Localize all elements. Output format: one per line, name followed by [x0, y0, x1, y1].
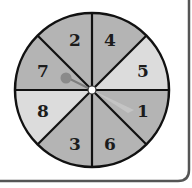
sector-label-5: 5: [137, 61, 149, 81]
sector-label-1: 1: [137, 101, 149, 121]
sector-label-4: 4: [104, 30, 116, 50]
hub: [88, 86, 96, 94]
sector-label-8: 8: [37, 101, 49, 121]
sector-label-2: 2: [69, 30, 81, 50]
sector-label-6: 6: [104, 134, 116, 154]
spinner-figure: 2 4 5 1 6 3 8 7: [0, 0, 192, 188]
sector-label-3: 3: [69, 134, 81, 154]
spinner-wheel: 2 4 5 1 6 3 8 7: [15, 13, 169, 167]
sector-label-7: 7: [37, 61, 49, 81]
